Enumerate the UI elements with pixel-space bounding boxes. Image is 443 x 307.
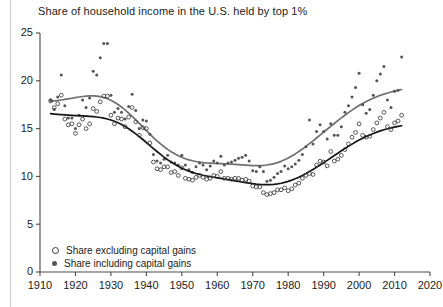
data-point: [244, 154, 247, 157]
data-point: [393, 90, 396, 93]
x-tick-label: 1920: [63, 279, 87, 291]
data-point: [74, 131, 78, 135]
data-point: [212, 160, 215, 163]
data-point: [365, 112, 368, 115]
data-point: [329, 122, 332, 125]
data-point: [92, 70, 95, 73]
data-point: [109, 113, 113, 117]
data-point: [99, 56, 102, 59]
data-point: [283, 186, 287, 190]
data-point: [127, 105, 130, 108]
data-point: [60, 74, 63, 77]
data-point: [106, 42, 109, 45]
data-point: [400, 55, 403, 58]
data-point: [319, 123, 322, 126]
data-point: [131, 93, 134, 96]
chart-page: Share of household income in the U.S. he…: [0, 0, 443, 307]
data-point: [81, 98, 84, 101]
data-point: [375, 121, 379, 125]
data-point: [124, 118, 127, 121]
data-point: [216, 162, 219, 165]
legend-marker-open-circle-icon: [52, 247, 59, 254]
data-point: [340, 125, 343, 128]
x-tick-label: 1930: [99, 279, 123, 291]
data-point: [325, 164, 329, 168]
data-point: [63, 104, 66, 107]
legend-label-including: Share including capital gains: [64, 258, 191, 269]
data-point: [85, 106, 88, 109]
data-point: [59, 93, 63, 97]
data-point: [333, 134, 336, 137]
x-tick-label: 2000: [347, 279, 371, 291]
data-point: [98, 100, 102, 104]
y-tick-label: 15: [21, 122, 33, 134]
data-point: [180, 154, 183, 157]
x-tick-label: 1970: [240, 279, 264, 291]
data-point: [351, 96, 354, 99]
data-point: [297, 159, 300, 162]
data-point: [241, 156, 244, 159]
data-point: [347, 142, 351, 146]
data-point: [308, 119, 311, 122]
y-tick-label: 25: [21, 26, 33, 38]
data-point: [329, 150, 333, 154]
data-point: [63, 117, 67, 121]
data-point: [152, 153, 155, 156]
data-point: [102, 42, 105, 45]
data-point: [173, 170, 177, 174]
data-point: [219, 155, 222, 158]
data-point: [70, 122, 74, 126]
data-point: [230, 161, 233, 164]
x-tick-label: 1980: [276, 279, 300, 291]
data-point: [67, 117, 70, 120]
data-point: [397, 89, 400, 92]
data-point: [287, 167, 290, 170]
data-point: [202, 163, 205, 166]
data-point: [347, 104, 350, 107]
data-point: [120, 117, 124, 121]
data-point: [382, 65, 385, 68]
data-point: [400, 113, 404, 117]
data-point: [184, 163, 187, 166]
data-point: [350, 135, 354, 139]
data-point: [336, 157, 340, 161]
data-point: [255, 170, 258, 173]
data-point: [326, 138, 329, 141]
data-point: [134, 109, 137, 112]
data-point: [304, 145, 307, 148]
y-tick-label: 0: [27, 265, 33, 277]
data-point: [396, 119, 400, 123]
data-point: [141, 119, 144, 122]
data-point: [357, 122, 361, 126]
x-tick-label: 1950: [170, 279, 194, 291]
data-point: [70, 117, 73, 120]
x-tick-label: 2020: [418, 279, 442, 291]
y-tick-label: 10: [21, 170, 33, 182]
data-point: [280, 170, 283, 173]
data-point: [74, 127, 77, 130]
data-point: [300, 176, 304, 180]
data-point: [88, 122, 92, 126]
data-point: [251, 169, 254, 172]
data-point: [195, 165, 198, 168]
data-point: [176, 174, 180, 178]
data-point: [219, 170, 223, 174]
data-point: [273, 176, 276, 179]
data-point: [301, 153, 304, 156]
data-point: [91, 107, 95, 111]
data-point: [269, 179, 272, 182]
y-tick-label: 5: [27, 218, 33, 230]
data-point: [248, 160, 251, 163]
data-point: [88, 97, 91, 100]
data-point: [56, 96, 59, 99]
data-point: [258, 165, 261, 168]
x-tick-label: 1910: [28, 279, 52, 291]
data-point: [226, 162, 229, 165]
data-point: [371, 128, 375, 132]
trend-line: [51, 90, 402, 166]
data-point: [77, 123, 81, 127]
data-point: [95, 109, 99, 113]
data-point: [237, 157, 240, 160]
data-point: [84, 127, 88, 131]
data-point: [262, 170, 265, 173]
